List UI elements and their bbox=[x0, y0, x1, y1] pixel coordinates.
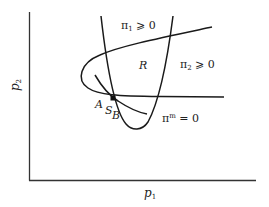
x-axis-label-main: p bbox=[144, 186, 152, 200]
economics-diagram: p2 p1 π1 ⩾ 0 π2 ⩾ 0 πm = 0 R A S B bbox=[0, 0, 269, 207]
pim-label-sup: m bbox=[169, 112, 176, 120]
point-s-region bbox=[111, 96, 116, 101]
y-axis-label-main: p bbox=[8, 83, 22, 91]
pi2-label: π2 ⩾ 0 bbox=[180, 59, 215, 72]
x-axis-label: p1 bbox=[144, 187, 156, 201]
point-b-label: B bbox=[112, 110, 120, 121]
y-axis-label-sub: 2 bbox=[15, 79, 23, 83]
point-a-label: A bbox=[95, 99, 103, 110]
x-axis-label-sub: 1 bbox=[152, 193, 156, 201]
pim-label-rest: = 0 bbox=[176, 112, 199, 125]
y-axis-label: p2 bbox=[9, 79, 23, 91]
pi2-label-rest: ⩾ 0 bbox=[192, 58, 215, 71]
region-r-label: R bbox=[139, 60, 147, 71]
pi1-label-rest: ⩾ 0 bbox=[133, 19, 156, 32]
pim-label: πm = 0 bbox=[162, 113, 199, 124]
pi1-label: π1 ⩾ 0 bbox=[121, 20, 156, 33]
